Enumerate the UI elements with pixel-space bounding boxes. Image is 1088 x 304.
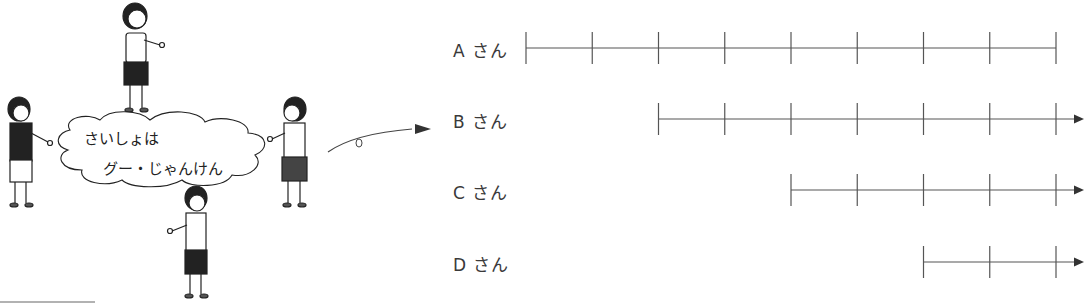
number-lines: [0, 0, 1088, 304]
arrowhead-icon: [1074, 115, 1084, 124]
number-line-row: [924, 246, 1085, 278]
number-line-row: [526, 32, 1056, 64]
arrowhead-icon: [1074, 186, 1084, 195]
number-line-row: [791, 174, 1084, 206]
number-line-row: [659, 103, 1085, 135]
arrowhead-icon: [1074, 258, 1084, 267]
